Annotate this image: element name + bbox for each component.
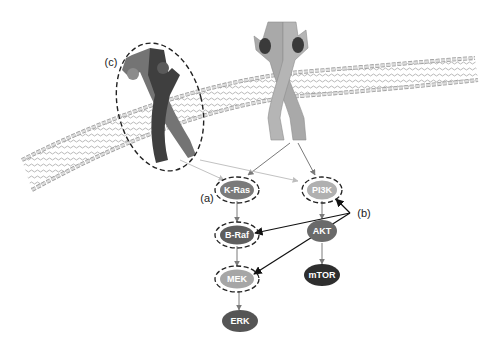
ligand-icon — [292, 37, 304, 53]
node-mek: MEK — [215, 266, 259, 292]
pathway-edges — [180, 143, 322, 310]
node-mtor: mTOR — [304, 264, 340, 286]
signaling-pathway-diagram: K-Ras B-Raf MEK ERK PI3K AKT mTOR (a) (b… — [0, 0, 496, 346]
callout-c-label: (c) — [105, 56, 118, 68]
node-pi3k: PI3K — [302, 177, 342, 203]
ligand-icon — [127, 68, 139, 80]
callout-b-label: (b) — [357, 207, 370, 219]
node-label: AKT — [313, 226, 332, 236]
node-label: K-Ras — [224, 185, 250, 195]
ligand-icon — [157, 62, 169, 74]
node-erk: ERK — [222, 310, 258, 332]
node-kras: K-Ras — [215, 177, 259, 203]
node-label: ERK — [230, 316, 250, 326]
node-akt: AKT — [307, 220, 337, 242]
node-label: B-Raf — [225, 230, 250, 240]
callout-a-label: (a) — [200, 192, 213, 204]
node-label: MEK — [227, 274, 248, 284]
node-label: mTOR — [309, 270, 336, 280]
lipid-bilayer-membrane — [22, 58, 478, 190]
callout-b-arrows — [254, 199, 350, 274]
node-label: PI3K — [312, 185, 333, 195]
node-braf: B-Raf — [215, 222, 259, 248]
ligand-icon — [259, 38, 271, 54]
